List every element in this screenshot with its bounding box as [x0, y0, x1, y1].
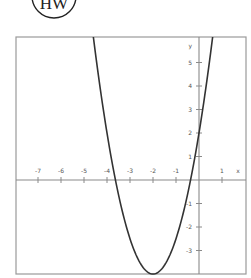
y-tick-label: 4: [188, 82, 192, 89]
y-tick-label: 1: [188, 153, 192, 160]
logo-text: HW: [40, 0, 69, 13]
x-axis-label: x: [236, 167, 240, 174]
x-tick-label: -7: [35, 167, 41, 174]
plot-svg: HW -7-6-5-4-3-2-1154321-1-2-3xy: [0, 0, 251, 278]
plot-frame: [16, 37, 246, 274]
x-tick-label: 1: [220, 167, 224, 174]
y-axis-label: y: [188, 42, 192, 50]
x-tick-label: -2: [150, 167, 156, 174]
hw-logo: HW: [32, 0, 76, 18]
axes: [16, 37, 246, 274]
y-tick-label: 2: [188, 129, 192, 136]
x-tick-label: -4: [104, 167, 110, 174]
x-tick-label: -3: [127, 167, 133, 174]
chart-figure: HW -7-6-5-4-3-2-1154321-1-2-3xy: [0, 0, 251, 278]
y-tick-label: -3: [186, 247, 192, 254]
tick-labels: -7-6-5-4-3-2-1154321-1-2-3xy: [35, 42, 240, 254]
y-tick-label: 3: [188, 106, 192, 113]
x-tick-label: -6: [58, 167, 64, 174]
x-tick-label: -1: [173, 167, 179, 174]
parabola-curve: [93, 37, 212, 274]
y-tick-label: 5: [188, 59, 192, 66]
x-tick-label: -5: [81, 167, 87, 174]
y-tick-label: -2: [186, 223, 192, 230]
